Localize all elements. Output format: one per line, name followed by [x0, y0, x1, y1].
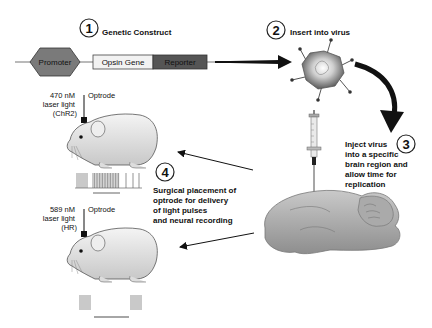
laser-label-bottom: 589 nM laser light (HR) — [43, 205, 78, 232]
step-3-line: brain region and — [345, 160, 408, 169]
arrowhead-icon — [278, 55, 292, 69]
step-4-line: Surgical placement of — [153, 186, 236, 195]
step-4-line: optrode for delivery — [153, 196, 229, 205]
laser-label-top: 470 nM laser light (ChR2) — [43, 91, 78, 118]
arrow-virus-to-injection — [355, 64, 404, 133]
optrode-label-bottom: Optrode — [88, 205, 115, 214]
step-2-number: 2 — [272, 23, 279, 38]
step-2: 2 Insert into virus — [267, 21, 351, 39]
optogenetics-diagram: 1 Genetic Construct Promoter Opsin Gene … — [0, 0, 432, 328]
spike-train-bottom — [80, 295, 141, 310]
arrowhead-icon — [380, 110, 404, 133]
arrow-brain-to-mouse-top — [178, 152, 253, 170]
genetic-construct: Promoter Opsin Gene Reporter — [15, 48, 215, 76]
step-2-title: Insert into virus — [290, 28, 351, 37]
mouse-top: 470 nM laser light (ChR2) Optrode — [43, 91, 158, 193]
step-1-title: Genetic Construct — [102, 28, 172, 37]
mouse-body-icon — [67, 228, 157, 282]
step-4: 4 Surgical placement of optrode for deli… — [153, 163, 238, 225]
arrow-brain-to-mouse-bottom — [180, 233, 254, 247]
step-4-line: and neural recording — [153, 216, 233, 225]
step-3-line: allow time for — [345, 170, 397, 179]
step-4-text: Surgical placement of optrode for delive… — [153, 186, 238, 225]
arrow-construct-to-virus — [215, 55, 292, 69]
step-1-number: 1 — [85, 21, 92, 36]
brain-icon — [265, 190, 400, 253]
optrode-label-top: Optrode — [88, 91, 115, 100]
step-4-line: of light pulses — [153, 206, 208, 215]
step-3-number: 3 — [402, 137, 409, 152]
step-4-number: 4 — [161, 165, 169, 180]
promoter-label: Promoter — [39, 58, 72, 67]
mouse-body-icon — [67, 114, 157, 168]
reporter-label: Reporter — [164, 58, 195, 67]
step-1: 1 Genetic Construct — [80, 19, 172, 37]
step-3-line: Inject virus — [345, 140, 388, 149]
step-3-line: into a specific — [345, 150, 399, 159]
opsin-gene-label: Opsin Gene — [102, 58, 145, 67]
step-3: 3 Inject virus into a specific brain reg… — [345, 135, 415, 189]
spike-train-top — [75, 173, 142, 188]
step-3-line: replication — [345, 180, 386, 189]
virus-icon — [290, 38, 354, 102]
mouse-bottom: 589 nM laser light (HR) Optrode — [43, 205, 158, 317]
